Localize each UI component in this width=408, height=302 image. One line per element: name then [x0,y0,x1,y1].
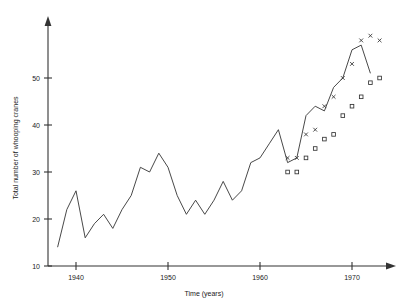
y-tick-label-30: 30 [32,169,40,176]
y-tick-label-40: 40 [32,122,40,129]
y-tick-label-20: 20 [32,216,40,223]
chart-background [0,0,408,302]
whooping-crane-population-chart: 10 20 30 40 50 1940 1950 1960 1970 Time … [0,0,408,302]
y-axis-label: Total number of whooping cranes [12,96,20,200]
y-tick-label-50: 50 [32,75,40,82]
x-tick-label-1970: 1970 [344,274,360,281]
x-axis-label: Time (years) [184,290,223,298]
x-tick-label-1960: 1960 [252,274,268,281]
x-tick-label-1950: 1950 [160,274,176,281]
y-tick-label-10: 10 [32,263,40,270]
x-tick-label-1940: 1940 [68,274,84,281]
chart-figure: 10 20 30 40 50 1940 1950 1960 1970 Time … [0,0,408,302]
